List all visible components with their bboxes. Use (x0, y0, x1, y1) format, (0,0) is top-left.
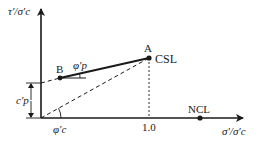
phi-p-arc (80, 74, 81, 78)
phi-p-label: φ′p (73, 60, 87, 71)
phi-c-label: φ′c (53, 124, 66, 135)
point-a (146, 55, 151, 60)
phi-c-arc (59, 108, 62, 118)
point-b (58, 76, 63, 81)
point-ncl (197, 115, 202, 120)
point-b-label: B (56, 64, 63, 75)
ncl-label: NCL (188, 104, 210, 115)
y-axis-label: τ′/σ′c (8, 6, 30, 17)
x-axis-label: σ′/σ′c (222, 126, 246, 137)
point-a-label: A (144, 43, 152, 54)
csl-label: CSL (155, 53, 177, 65)
cohesion-label: c′p (16, 95, 29, 106)
x-tick-label: 1.0 (142, 122, 156, 133)
peak-envelope-dashed (41, 78, 60, 83)
diagram-canvas (0, 0, 260, 141)
